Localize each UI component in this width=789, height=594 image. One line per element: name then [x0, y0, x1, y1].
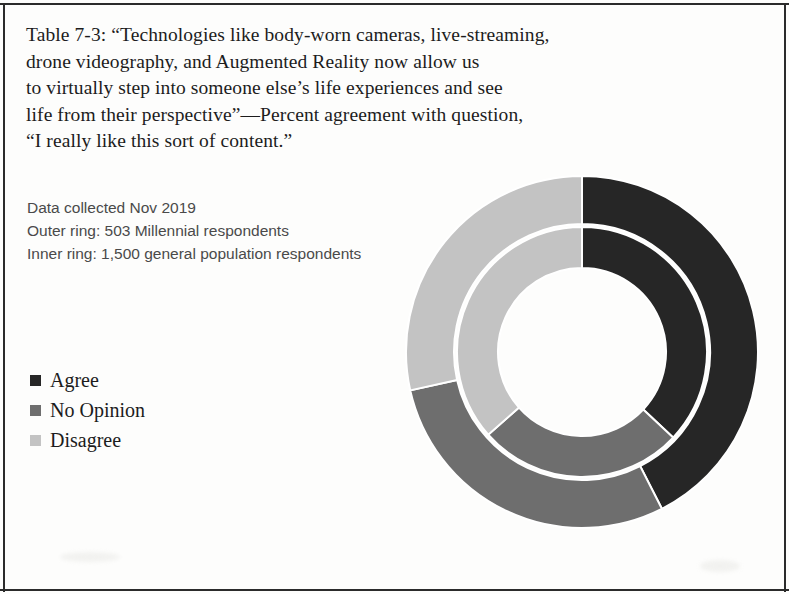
legend-item-disagree: Disagree	[30, 425, 145, 455]
caption-line: Table 7-3: “Technologies like body-worn …	[26, 22, 651, 49]
scan-artifact	[700, 560, 740, 572]
donut-chart-svg	[400, 168, 776, 544]
donut-ring-inner	[457, 227, 707, 477]
legend-label: No Opinion	[50, 400, 145, 420]
page-border-bottom	[0, 589, 789, 591]
legend-item-no-opinion: No Opinion	[30, 395, 145, 425]
caption-line: drone videography, and Augmented Reality…	[26, 49, 651, 76]
legend-swatch-icon	[30, 375, 41, 386]
note-inner-ring: Inner ring: 1,500 general population res…	[27, 242, 361, 265]
legend-swatch-icon	[30, 405, 41, 416]
data-source-notes: Data collected Nov 2019 Outer ring: 503 …	[27, 196, 361, 265]
page-border-top	[0, 3, 789, 5]
legend-swatch-icon	[30, 435, 41, 446]
caption-line: “I really like this sort of content.”	[26, 128, 651, 155]
nested-donut-chart	[400, 168, 776, 544]
scan-artifact	[60, 552, 120, 562]
caption-line: to virtually step into someone else’s li…	[26, 75, 651, 102]
chart-legend: Agree No Opinion Disagree	[30, 365, 145, 455]
page-border-right	[784, 3, 786, 592]
caption-line: life from their perspective”—Percent agr…	[26, 102, 651, 129]
table-caption: Table 7-3: “Technologies like body-worn …	[26, 22, 651, 155]
page-border-left	[3, 3, 5, 592]
note-collection-date: Data collected Nov 2019	[27, 196, 361, 219]
note-outer-ring: Outer ring: 503 Millennial respondents	[27, 219, 361, 242]
legend-label: Agree	[50, 370, 99, 390]
legend-label: Disagree	[50, 430, 121, 450]
legend-item-agree: Agree	[30, 365, 145, 395]
page-canvas: Table 7-3: “Technologies like body-worn …	[0, 0, 789, 594]
